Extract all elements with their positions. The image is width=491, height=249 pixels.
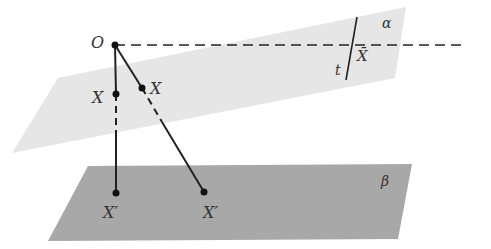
label-alpha: α (382, 15, 392, 31)
label-X1-prime: X′ (101, 203, 118, 222)
label-X2-prime: X′ (201, 203, 218, 222)
label-O: O (91, 33, 104, 52)
point-X1 (113, 91, 120, 98)
point-X2-prime (201, 189, 208, 196)
point-X2 (139, 85, 146, 92)
plane-alpha (12, 7, 406, 153)
label-X2: X (148, 79, 162, 98)
ray-1-upper (115, 45, 116, 94)
point-X1-prime (113, 190, 120, 197)
label-beta: β (380, 173, 389, 189)
label-X-bar: X̄ (356, 47, 369, 65)
label-t: t (335, 62, 341, 78)
projection-diagram: O X X X′ X′ X̄ t α β (0, 0, 491, 249)
label-X1: X (90, 88, 104, 107)
point-O (112, 42, 119, 49)
